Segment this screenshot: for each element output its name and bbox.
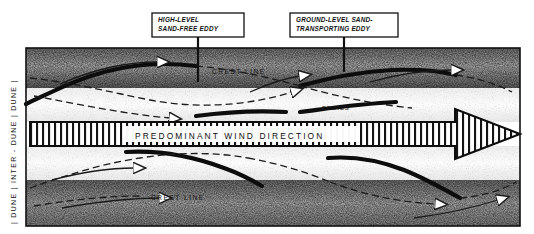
- label-crest-line-top: CREST LINE: [212, 68, 266, 75]
- callout-high-level-line2: SAND-FREE EDDY: [158, 25, 219, 32]
- stratum-inter-dune-upper: [26, 88, 520, 122]
- callout-ground-level-line1: GROUND-LEVEL SAND-: [296, 16, 373, 23]
- diagram-canvas: HIGH-LEVEL SAND-FREE EDDY GROUND-LEVEL S…: [0, 0, 534, 234]
- label-predominant-wind-direction: PREDOMINANT WIND DIRECTION: [135, 131, 324, 141]
- stratum-dune-bottom: [26, 180, 520, 226]
- callout-high-level-line1: HIGH-LEVEL: [158, 16, 199, 23]
- callout-ground-level-line2: TRANSPORTING EDDY: [296, 25, 370, 32]
- stratum-dune-top: [26, 48, 520, 88]
- side-axis-dune-labels: | DUNE | INTER - DUNE | DUNE |: [10, 79, 18, 224]
- dune-eddy-diagram: HIGH-LEVEL SAND-FREE EDDY GROUND-LEVEL S…: [0, 0, 534, 234]
- callout-ground-level-eddy[interactable]: GROUND-LEVEL SAND- TRANSPORTING EDDY: [290, 13, 398, 37]
- label-eddies: EDDIES: [322, 105, 350, 111]
- callout-high-level-eddy[interactable]: HIGH-LEVEL SAND-FREE EDDY: [152, 13, 244, 37]
- label-crest-line-bottom: CREST LINE: [151, 194, 205, 201]
